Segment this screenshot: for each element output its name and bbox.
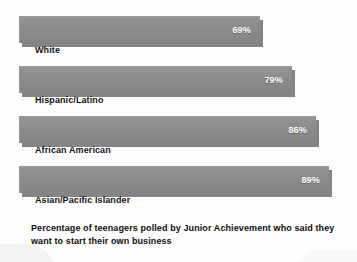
bar-asian-pacific-islander[interactable]: 89% bbox=[19, 166, 329, 193]
chart-caption-line-1: Percentage of teenagers polled by Junior… bbox=[31, 222, 341, 235]
bar-track: 79% bbox=[19, 66, 293, 93]
bar-group-african-american: 86% bbox=[19, 116, 317, 143]
bar-value-white: 69% bbox=[232, 25, 260, 35]
bar-group-asian-pacific-islander: 89% bbox=[19, 166, 330, 193]
chart-plot-area: 69% White 79% Hispanic/Latino 86% bbox=[0, 0, 357, 215]
bar-category-label-white: White bbox=[35, 45, 60, 55]
bar-hispanic-latino[interactable]: 79% bbox=[19, 66, 292, 93]
bar-track: 86% bbox=[19, 116, 317, 143]
bar-value-african-american: 86% bbox=[288, 125, 316, 135]
bar-group-hispanic-latino: 79% bbox=[19, 66, 293, 93]
bar-category-label-hispanic-latino: Hispanic/Latino bbox=[35, 95, 104, 105]
bar-track: 69% bbox=[19, 16, 261, 43]
bar-category-label-african-american: African American bbox=[35, 145, 111, 155]
bar-african-american[interactable]: 86% bbox=[19, 116, 316, 143]
bar-category-label-asian-pacific-islander: Asian/Pacific Islander bbox=[35, 195, 130, 205]
bar-white[interactable]: 69% bbox=[19, 16, 260, 43]
chart-caption-line-2: want to start their own business bbox=[31, 235, 341, 248]
bar-track: 89% bbox=[19, 166, 330, 193]
bar-group-white: 69% bbox=[19, 16, 261, 43]
chart-caption: Percentage of teenagers polled by Junior… bbox=[31, 222, 341, 248]
bar-chart-figure: 69% White 79% Hispanic/Latino 86% bbox=[0, 0, 357, 262]
bar-value-asian-pacific-islander: 89% bbox=[301, 175, 329, 185]
bar-value-hispanic-latino: 79% bbox=[264, 75, 292, 85]
